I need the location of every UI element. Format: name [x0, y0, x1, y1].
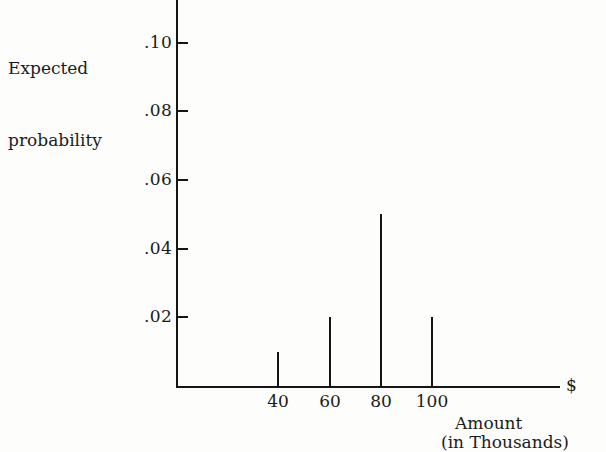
plot-area: .10.08.06.04.02406080100 — [0, 0, 606, 452]
x-axis-tick-label: 40 — [267, 392, 289, 411]
y-axis-tick-label: .10 — [126, 34, 172, 51]
y-axis-tick — [178, 316, 188, 318]
y-axis-tick-label-text: .02 — [128, 308, 172, 325]
y-axis-tick — [178, 110, 188, 112]
data-spike — [431, 317, 433, 386]
y-axis-tick — [178, 179, 188, 181]
data-spike — [277, 352, 279, 386]
data-spike — [380, 214, 382, 386]
y-axis-tick-label-text: .06 — [128, 171, 172, 188]
y-axis-tick-label: .06 — [126, 171, 172, 188]
y-axis-tick-label: .02 — [126, 308, 172, 325]
y-axis-tick — [178, 42, 188, 44]
y-axis-tick-label: .08 — [126, 102, 172, 119]
x-axis-tick-label: 80 — [370, 392, 392, 411]
y-axis-tick-label-text: .08 — [128, 102, 172, 119]
y-axis-tick — [178, 248, 188, 250]
y-axis-tick-label-text: .04 — [128, 240, 172, 257]
x-axis-tick-label: 100 — [416, 392, 448, 411]
y-axis-tick-label: .04 — [126, 240, 172, 257]
data-spike — [329, 317, 331, 386]
x-axis-subtitle: (in Thousands) — [441, 431, 569, 452]
y-axis-tick-label-text: .10 — [128, 34, 172, 51]
x-axis-currency-symbol: $ — [566, 377, 577, 394]
x-axis-tick-label: 60 — [319, 392, 341, 411]
chart-figure: Expected probability .10.08.06.04.024060… — [0, 0, 606, 452]
